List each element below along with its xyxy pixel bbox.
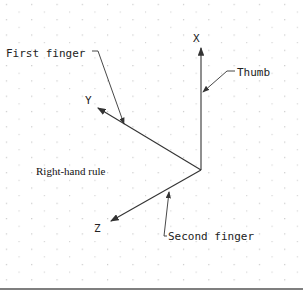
x-axis-label: X [193, 32, 200, 45]
dot-grid [0, 0, 303, 284]
thumb-annotation: Thumb [237, 66, 270, 79]
z-axis-label: Z [94, 222, 101, 235]
first-finger-annotation: First finger [6, 47, 86, 60]
y-axis-label: Y [85, 94, 92, 107]
right-hand-rule-diagram: X Y Z Thumb First finger Second finger R… [0, 0, 303, 293]
second-finger-annotation: Second finger [168, 230, 254, 243]
diagram-title: Right-hand rule [36, 165, 105, 177]
